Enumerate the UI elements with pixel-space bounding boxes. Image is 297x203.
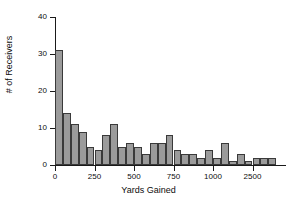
x-tick-mark bbox=[174, 166, 175, 171]
x-tick-mark bbox=[213, 166, 214, 171]
histogram-bar bbox=[181, 154, 189, 165]
x-axis-title: Yards Gained bbox=[0, 186, 297, 195]
histogram-bar bbox=[213, 158, 221, 165]
histogram-bar bbox=[95, 150, 103, 165]
histogram-bar bbox=[268, 158, 276, 165]
histogram-bar bbox=[205, 150, 213, 165]
x-tick-label: 750 bbox=[154, 173, 194, 181]
histogram-bar bbox=[189, 154, 197, 165]
histogram-bar bbox=[174, 150, 182, 165]
histogram-bar bbox=[126, 143, 134, 165]
histogram-bar bbox=[229, 161, 237, 165]
histogram-bar bbox=[150, 143, 158, 165]
x-tick-label: 500 bbox=[114, 173, 154, 181]
histogram-chart: 010203040 025050075010002500 Yards Gaine… bbox=[0, 0, 297, 203]
y-tick-label: 0 bbox=[27, 161, 47, 169]
histogram-bar bbox=[260, 158, 268, 165]
y-tick-label: 10 bbox=[27, 124, 47, 132]
histogram-bar bbox=[63, 113, 71, 165]
y-tick-label: 40 bbox=[27, 13, 47, 21]
x-tick-mark bbox=[253, 166, 254, 171]
x-tick-mark bbox=[95, 166, 96, 171]
histogram-bar bbox=[142, 154, 150, 165]
y-tick-label: 20 bbox=[27, 87, 47, 95]
x-axis-line bbox=[55, 165, 286, 166]
x-tick-mark bbox=[134, 166, 135, 171]
histogram-bar bbox=[87, 147, 95, 166]
histogram-bar bbox=[102, 135, 110, 165]
x-tick-label: 2500 bbox=[233, 173, 273, 181]
histogram-bar bbox=[71, 124, 79, 165]
y-axis-title: # of Receivers bbox=[5, 19, 14, 111]
x-tick-mark bbox=[55, 166, 56, 171]
histogram-bar bbox=[253, 158, 261, 165]
histogram-bar bbox=[118, 147, 126, 166]
histogram-bar bbox=[197, 158, 205, 165]
x-tick-label: 1000 bbox=[193, 173, 233, 181]
x-tick-label: 250 bbox=[75, 173, 115, 181]
histogram-bar bbox=[237, 154, 245, 165]
histogram-bar bbox=[110, 124, 118, 165]
histogram-bar bbox=[55, 50, 63, 165]
histogram-bar bbox=[245, 161, 253, 165]
y-tick-label: 30 bbox=[27, 50, 47, 58]
histogram-bar bbox=[134, 147, 142, 166]
x-tick-label: 0 bbox=[35, 173, 75, 181]
histogram-bar bbox=[166, 135, 174, 165]
histogram-bar bbox=[158, 143, 166, 165]
histogram-bars bbox=[55, 17, 286, 165]
histogram-bar bbox=[79, 132, 87, 165]
histogram-bar bbox=[221, 143, 229, 165]
